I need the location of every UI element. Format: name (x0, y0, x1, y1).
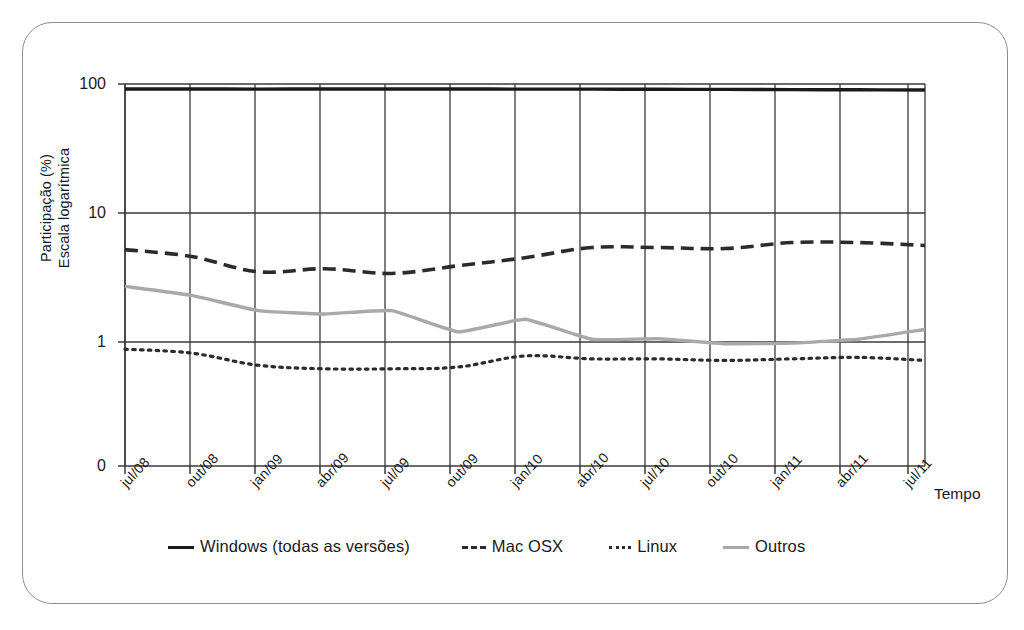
axis-spines (125, 84, 925, 466)
y-tick-0: 0 (60, 458, 106, 474)
legend-item-mac-osx[interactable]: Mac OSX (462, 537, 563, 555)
y-tick-label-100: 100 (79, 76, 106, 92)
legend-line-gray-icon (723, 539, 749, 553)
legend-item-linux[interactable]: Linux (609, 537, 677, 555)
x-gridlines (125, 84, 925, 466)
series-line-windows-todas-as-vers-es (125, 89, 925, 90)
y-tick-marks (118, 84, 125, 466)
data-series-layer (125, 89, 925, 369)
y-tick-label-1: 1 (97, 334, 106, 350)
legend-item-windows[interactable]: Windows (todas as versões) (168, 537, 410, 555)
y-tick-label-0: 0 (97, 458, 106, 474)
series-line-linux (125, 349, 925, 369)
y-tick-1: 1 (60, 334, 106, 350)
legend-line-dotted-icon (609, 539, 631, 553)
y-tick-100: 100 (60, 76, 106, 92)
y-tick-label-10: 10 (88, 205, 106, 221)
x-axis-title: Tempo (934, 485, 981, 503)
chart-figure: Participação (%) Escala logarítmica 100 … (0, 0, 1024, 630)
legend-label-windows: Windows (todas as versões) (200, 537, 410, 555)
y-gridlines (125, 84, 925, 342)
series-line-outros (125, 286, 925, 343)
legend-line-dashed-icon (462, 539, 486, 553)
legend-line-solid-icon (168, 539, 194, 553)
y-tick-10: 10 (60, 205, 106, 221)
legend-label-linux: Linux (637, 537, 677, 555)
legend-item-outros[interactable]: Outros (723, 537, 805, 555)
legend-label-outros: Outros (755, 537, 805, 555)
legend-label-mac-osx: Mac OSX (492, 537, 563, 555)
y-axis-title-line1: Participação (%) (37, 98, 55, 318)
series-line-mac-osx (125, 242, 925, 274)
chart-legend: Windows (todas as versões) Mac OSX Linux… (168, 533, 868, 559)
